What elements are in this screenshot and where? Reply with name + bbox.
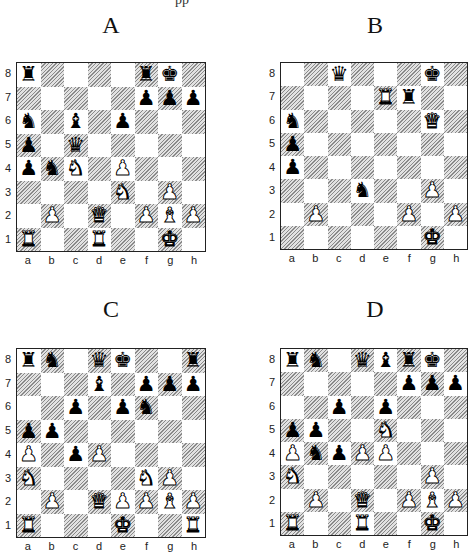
rank-label: 3 — [266, 470, 278, 482]
black-rook-icon: ♜ — [19, 350, 38, 371]
chessboard: ♜♞♛♚♜♝♟♟♟♟♟♞♟♟♟♟♟♞♞♟♟♛♟♟♝♟♜♚♜ — [16, 348, 206, 538]
black-pawn-icon: ♟ — [137, 88, 156, 109]
square-e6: ♟ — [111, 110, 135, 134]
white-pawn-icon: ♟ — [113, 491, 132, 512]
white-pawn-icon: ♟ — [90, 444, 109, 465]
square-a4: ♟ — [281, 156, 304, 179]
file-label: h — [445, 252, 469, 264]
white-pawn-icon: ♟ — [43, 205, 62, 226]
white-knight-icon: ♞ — [66, 158, 85, 179]
black-rook-icon: ♜ — [184, 350, 203, 371]
square-f1 — [397, 512, 420, 535]
square-c1 — [64, 514, 88, 538]
square-h1 — [444, 512, 467, 535]
white-king-icon: ♚ — [423, 227, 442, 248]
white-pawn-icon: ♟ — [137, 205, 156, 226]
square-d6 — [88, 396, 112, 420]
square-g6: ♛ — [421, 110, 444, 133]
diagram-d-label: D — [345, 296, 405, 323]
square-g8: ♚ — [421, 63, 444, 86]
file-label: b — [304, 538, 328, 550]
square-g6 — [158, 396, 182, 420]
black-knight-icon: ♞ — [43, 158, 62, 179]
black-king-icon: ♚ — [423, 350, 442, 371]
file-label: g — [159, 540, 183, 552]
square-f4 — [397, 442, 420, 465]
square-h2: ♟ — [182, 204, 206, 228]
square-c3 — [64, 181, 88, 205]
black-pawn-icon: ♟ — [19, 421, 38, 442]
square-e2 — [374, 489, 397, 512]
black-pawn-icon: ♟ — [184, 88, 203, 109]
file-label: a — [16, 540, 40, 552]
square-g8: ♚ — [158, 63, 182, 87]
square-a7 — [281, 86, 304, 109]
diagram-c-label: C — [81, 296, 141, 323]
square-h3 — [444, 465, 467, 488]
white-rook-icon: ♜ — [283, 513, 302, 534]
square-c1 — [64, 228, 88, 252]
square-c8: ♛ — [328, 63, 351, 86]
square-g1: ♚ — [158, 228, 182, 252]
square-c1 — [328, 226, 351, 249]
rank-label: 8 — [2, 67, 14, 79]
square-e4 — [374, 156, 397, 179]
square-e4 — [111, 443, 135, 467]
square-d3 — [88, 181, 112, 205]
square-d4: ♟ — [351, 442, 374, 465]
square-h5 — [444, 419, 467, 442]
square-f5 — [397, 133, 420, 156]
square-e8: ♚ — [111, 349, 135, 373]
file-label: f — [398, 538, 422, 550]
black-pawn-icon: ♟ — [330, 443, 349, 464]
square-g4 — [421, 156, 444, 179]
chessboard: ♜♞♛♝♜♚♟♟♟♟♟♟♟♞♟♞♟♟♟♞♟♟♛♟♝♟♜♜♚ — [280, 348, 468, 536]
black-queen-icon: ♛ — [66, 135, 85, 156]
square-d7 — [351, 86, 374, 109]
rank-label: 7 — [2, 377, 14, 389]
black-queen-icon: ♛ — [330, 64, 349, 85]
square-e6: ♟ — [374, 396, 397, 419]
black-pawn-icon: ♟ — [19, 158, 38, 179]
square-e8 — [374, 63, 397, 86]
black-rook-icon: ♜ — [137, 64, 156, 85]
file-label: d — [87, 254, 111, 266]
white-rook-icon: ♜ — [353, 513, 372, 534]
square-d7: ♝ — [88, 373, 112, 397]
square-f2: ♟ — [135, 204, 159, 228]
black-rook-icon: ♜ — [399, 87, 418, 108]
white-knight-icon: ♞ — [137, 468, 156, 489]
white-knight-icon: ♞ — [283, 466, 302, 487]
square-f1 — [135, 514, 159, 538]
white-pawn-icon: ♟ — [306, 204, 325, 225]
square-c3 — [328, 179, 351, 202]
square-b3 — [304, 179, 327, 202]
square-h4 — [182, 443, 206, 467]
square-a4: ♟ — [281, 442, 304, 465]
rank-label: 2 — [266, 208, 278, 220]
square-d8: ♛ — [88, 349, 112, 373]
square-g6 — [421, 396, 444, 419]
rank-label: 5 — [266, 137, 278, 149]
square-b1 — [41, 514, 65, 538]
black-pawn-icon: ♟ — [283, 157, 302, 178]
black-pawn-icon: ♟ — [19, 135, 38, 156]
white-pawn-icon: ♟ — [113, 158, 132, 179]
square-f2: ♟ — [397, 203, 420, 226]
white-queen-icon: ♛ — [353, 490, 372, 511]
black-rook-icon: ♜ — [399, 350, 418, 371]
square-h6 — [182, 110, 206, 134]
white-pawn-icon: ♟ — [376, 443, 395, 464]
black-bishop-icon: ♝ — [376, 350, 395, 371]
square-c5 — [64, 420, 88, 444]
black-knight-icon: ♞ — [19, 111, 38, 132]
square-b1 — [304, 512, 327, 535]
white-pawn-icon: ♟ — [184, 205, 203, 226]
square-c6: ♟ — [64, 396, 88, 420]
square-h2: ♟ — [444, 489, 467, 512]
square-g8 — [158, 349, 182, 373]
square-b2: ♟ — [304, 489, 327, 512]
file-label: d — [351, 252, 375, 264]
white-pawn-icon: ♟ — [399, 490, 418, 511]
square-b6 — [304, 110, 327, 133]
